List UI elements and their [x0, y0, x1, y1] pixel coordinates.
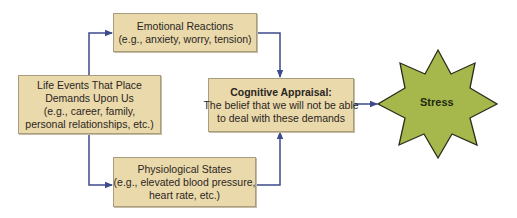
emotional-line2: (e.g., anxiety, worry, tension): [118, 33, 251, 46]
life-events-line2: Demands Upon Us: [45, 92, 134, 105]
arrow-life-to-emotional: [89, 33, 112, 75]
emotional-line1: Emotional Reactions: [137, 20, 233, 33]
emotional-reactions-box: Emotional Reactions (e.g., anxiety, worr…: [113, 13, 257, 52]
life-events-line4: personal relationships, etc.): [25, 118, 153, 131]
stress-label: Stress: [420, 96, 454, 108]
life-events-line3: (e.g., career, family,: [44, 105, 135, 118]
life-events-box: Life Events That Place Demands Upon Us (…: [18, 75, 161, 134]
cognitive-appraisal-box: Cognitive Appraisal: The belief that we …: [208, 78, 354, 132]
physiological-line2: (e.g., elevated blood pressure,: [114, 176, 256, 189]
cognitive-line1: The belief that we will not be able: [203, 99, 358, 112]
physiological-line3: heart rate, etc.): [149, 189, 220, 202]
life-events-line1: Life Events That Place: [37, 79, 142, 92]
arrow-physiological-to-cognitive: [256, 132, 280, 185]
arrow-emotional-to-cognitive: [257, 33, 280, 77]
arrow-life-to-physiological: [89, 133, 112, 185]
physiological-line1: Physiological States: [138, 163, 232, 176]
physiological-states-box: Physiological States (e.g., elevated blo…: [113, 157, 256, 207]
cognitive-title: Cognitive Appraisal:: [230, 86, 332, 99]
cognitive-line2: to deal with these demands: [217, 112, 345, 125]
